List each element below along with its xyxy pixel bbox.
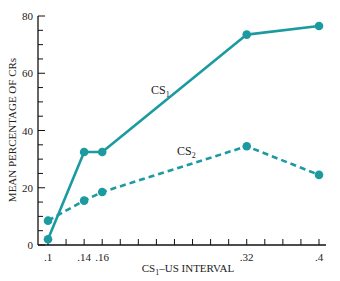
y-tick-label: 40 <box>22 125 34 137</box>
x-tick-label: .1 <box>44 251 52 263</box>
data-point-cs2 <box>315 171 324 180</box>
data-point-cs1 <box>80 148 89 157</box>
data-point-cs2 <box>242 142 251 151</box>
x-tick-label: .4 <box>315 251 324 263</box>
y-tick-label: 0 <box>28 239 34 251</box>
data-point-cs2 <box>44 216 53 225</box>
line-chart: 020406080.1.14.16.32.4 CS1–US INTERVALME… <box>0 0 340 281</box>
data-point-cs1 <box>44 235 53 244</box>
x-tick-label: .14 <box>77 251 91 263</box>
data-point-cs2 <box>80 196 89 205</box>
x-tick-label: .32 <box>240 251 254 263</box>
x-axis-title: CS1–US INTERVAL <box>142 262 235 277</box>
data-point-cs1 <box>315 22 324 31</box>
data-point-cs2 <box>98 188 107 197</box>
series-line-cs1 <box>48 26 319 239</box>
y-tick-label: 20 <box>22 182 34 194</box>
y-axis-title: MEAN PERCENTAGE OF CRs <box>6 58 18 202</box>
y-tick-label: 80 <box>22 10 34 22</box>
y-tick-label: 60 <box>22 67 34 79</box>
data-point-cs1 <box>98 148 107 157</box>
series-group <box>44 22 324 244</box>
x-tick-label: .16 <box>95 251 109 263</box>
series-label-cs2: CS2 <box>177 144 196 160</box>
axes: 020406080.1.14.16.32.4 <box>22 10 326 263</box>
data-point-cs1 <box>242 30 251 39</box>
series-label-cs1: CS1 <box>151 83 170 99</box>
